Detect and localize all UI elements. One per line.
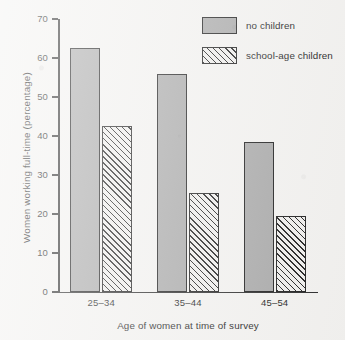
x-axis-category-label: 35–44 <box>148 297 228 308</box>
legend-item-school-age-children: school-age children <box>202 47 333 64</box>
legend-label-no-children: no children <box>246 20 295 31</box>
x-axis-category-label: 45–54 <box>235 297 315 308</box>
bar-school-age-children <box>189 193 219 292</box>
legend-swatch-hatched-icon <box>202 47 237 64</box>
y-axis-title: Women working full-time (percentage) <box>21 50 32 265</box>
legend-item-no-children: no children <box>202 17 333 34</box>
bar-no-children <box>157 74 187 292</box>
bar-school-age-children <box>276 216 306 292</box>
bar-no-children <box>70 48 100 292</box>
y-axis-tick-label: 70 <box>0 14 48 24</box>
chart-legend: no children school-age children <box>202 17 333 77</box>
y-axis-tick-label: 0 <box>0 287 48 297</box>
x-axis-title: Age of women at time of survey <box>58 320 318 331</box>
bar-no-children <box>244 142 274 292</box>
x-axis-category-label: 25–34 <box>61 297 141 308</box>
legend-swatch-solid-icon <box>202 17 237 34</box>
bar-school-age-children <box>102 126 132 292</box>
bar-chart-figure: 010203040506070 25–3435–4445–54 Women wo… <box>0 0 345 340</box>
legend-label-school-age-children: school-age children <box>246 50 333 61</box>
